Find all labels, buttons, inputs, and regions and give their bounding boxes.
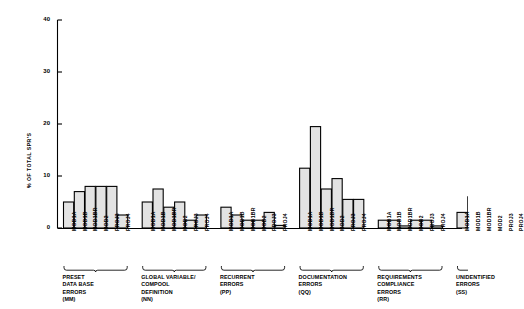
x-axis-label-MOD2: MOD2: [497, 215, 503, 231]
group-caption-4: DOCUMENTATIONERRORS(QQ): [299, 274, 347, 296]
group-caption-line: (PP): [220, 289, 255, 296]
group-caption-line: RECURRENT: [220, 274, 255, 281]
y-axis-ticks: [58, 20, 63, 228]
group-brace: [458, 266, 469, 272]
group-caption-line: COMPOOL: [141, 281, 195, 288]
y-axis-title: % OF TOTAL SPR'S: [26, 133, 32, 188]
group-caption-line: (SS): [456, 289, 495, 296]
x-axis-label-MOD1BR: MOD1BR: [171, 207, 177, 231]
x-axis-label-PROJ4: PROJ4: [440, 213, 446, 231]
x-axis-label-MOD2: MOD2: [182, 215, 188, 231]
group-caption-line: ERRORS: [377, 289, 422, 296]
x-axis-label-MOD1B: MOD1B: [396, 211, 402, 231]
group-caption-line: (RR): [377, 296, 422, 303]
x-axis-label-PROJ3: PROJ3: [350, 213, 356, 231]
group-caption-line: ERRORS: [456, 281, 495, 288]
x-axis-label-PROJ3: PROJ3: [508, 213, 514, 231]
x-axis-label-MOD1A: MOD1A: [386, 211, 392, 231]
x-axis-label-MOD2: MOD2: [418, 215, 424, 231]
group-caption-line: GLOBAL VARIABLE/: [141, 274, 195, 281]
group-brace: [300, 266, 363, 272]
x-axis-label-PROJ3: PROJ3: [271, 213, 277, 231]
group-brace: [221, 266, 284, 272]
group-caption-line: (MM): [63, 296, 94, 303]
y-tick-label-30: 30: [34, 68, 50, 74]
group-caption-line: ERRORS: [63, 289, 94, 296]
group-caption-1: PRESETDATA BASEERRORS(MM): [63, 274, 94, 303]
group-braces: [64, 266, 468, 272]
group-caption-line: (QQ): [299, 289, 347, 296]
y-tick-label-40: 40: [34, 16, 50, 22]
x-axis-label-MOD1A: MOD1A: [71, 211, 77, 231]
x-axis-label-PROJ3: PROJ3: [193, 213, 199, 231]
group-caption-2: GLOBAL VARIABLE/COMPOOLDEFINITION(NN): [141, 274, 195, 303]
group-caption-line: (NN): [141, 296, 195, 303]
x-axis-label-PROJ3: PROJ3: [429, 213, 435, 231]
x-axis-label-PROJ4: PROJ4: [361, 213, 367, 231]
group-caption-line: ERRORS: [299, 281, 347, 288]
x-axis-label-MOD1B: MOD1B: [160, 211, 166, 231]
x-axis-label-PROJ4: PROJ4: [282, 213, 288, 231]
x-axis-label-MOD1BR: MOD1BR: [486, 207, 492, 231]
x-axis-label-PROJ4: PROJ4: [204, 213, 210, 231]
group-caption-line: ERRORS: [220, 281, 255, 288]
group-brace: [143, 266, 206, 272]
group-caption-line: DOCUMENTATION: [299, 274, 347, 281]
x-axis-label-MOD2: MOD2: [103, 215, 109, 231]
x-axis-label-MOD1A: MOD1A: [150, 211, 156, 231]
x-axis-label-PROJ4: PROJ4: [518, 213, 524, 231]
y-tick-label-0: 0: [34, 224, 50, 230]
chart-axes: [58, 20, 463, 229]
x-axis-label-MOD1B: MOD1B: [239, 211, 245, 231]
x-axis-label-MOD1BR: MOD1BR: [407, 207, 413, 231]
y-tick-label-20: 20: [34, 120, 50, 126]
x-axis-label-MOD1B: MOD1B: [318, 211, 324, 231]
x-axis-label-MOD2: MOD2: [339, 215, 345, 231]
group-caption-line: PRESET: [63, 274, 94, 281]
x-axis-label-MOD1B: MOD1B: [475, 211, 481, 231]
x-axis-label-MOD1A: MOD1A: [228, 211, 234, 231]
x-axis-label-MOD1A: MOD1A: [464, 211, 470, 231]
x-axis-label-PROJ3: PROJ3: [114, 213, 120, 231]
x-axis-label-MOD1B: MOD1B: [82, 211, 88, 231]
group-brace: [64, 266, 127, 272]
x-axis-label-MOD2: MOD2: [261, 215, 267, 231]
x-axis-label-MOD1BR: MOD1BR: [250, 207, 256, 231]
group-caption-line: COMPLIANCE: [377, 281, 422, 288]
group-caption-line: DATA BASE: [63, 281, 94, 288]
group-caption-line: DEFINITION: [141, 289, 195, 296]
y-tick-label-10: 10: [34, 172, 50, 178]
group-caption-line: REQUIREMENTS: [377, 274, 422, 281]
group-caption-3: RECURRENTERRORS(PP): [220, 274, 255, 296]
x-axis-label-MOD1A: MOD1A: [307, 211, 313, 231]
x-axis-label-MOD1BR: MOD1BR: [329, 207, 335, 231]
x-axis-label-MOD1BR: MOD1BR: [92, 207, 98, 231]
group-caption-line: UNIDENTIFIED: [456, 274, 495, 281]
x-axis-label-PROJ4: PROJ4: [125, 213, 131, 231]
group-caption-6: UNIDENTIFIEDERRORS(SS): [456, 274, 495, 296]
group-caption-5: REQUIREMENTSCOMPLIANCEERRORS(RR): [377, 274, 422, 303]
group-brace: [379, 266, 442, 272]
